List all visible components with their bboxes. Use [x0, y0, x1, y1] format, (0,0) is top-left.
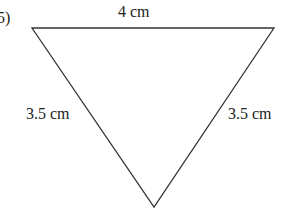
triangle-diagram: 5) 4 cm 3.5 cm 3.5 cm	[0, 0, 287, 214]
problem-number: 5)	[0, 9, 10, 27]
top-side-label: 4 cm	[118, 3, 150, 20]
right-side-label: 3.5 cm	[228, 105, 272, 122]
left-side-label: 3.5 cm	[26, 105, 70, 122]
